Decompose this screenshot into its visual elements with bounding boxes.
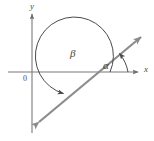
alpha-arc [120, 54, 129, 73]
terminal-line [39, 37, 141, 122]
alpha-angle-label: α [103, 60, 109, 71]
origin-label: 0 [23, 75, 27, 83]
beta-angle-label: β [70, 48, 75, 59]
x-axis-label: x [144, 65, 148, 74]
geometry-figure: y x 0 α β [0, 0, 154, 141]
y-axis-label: y [30, 2, 34, 11]
figure-canvas [0, 0, 154, 141]
